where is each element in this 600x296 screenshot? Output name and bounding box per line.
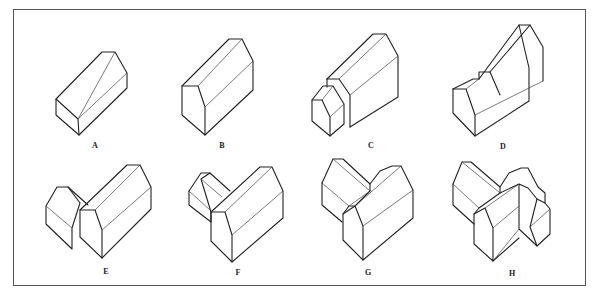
panel-label-b: B	[219, 141, 224, 150]
building-forms-diagram	[0, 0, 600, 296]
panel-label-a: A	[92, 141, 98, 150]
panel-b-drawing	[182, 39, 253, 135]
panel-label-g: G	[365, 268, 371, 277]
panel-d-drawing	[453, 25, 543, 136]
panel-g-drawing	[322, 159, 413, 260]
panel-label-e: E	[103, 267, 108, 276]
panel-e-drawing	[46, 165, 151, 258]
panel-c-drawing	[312, 34, 398, 136]
panel-label-f: F	[236, 268, 241, 277]
panel-a-drawing	[56, 52, 127, 135]
panel-label-h: H	[509, 269, 515, 278]
panel-h-drawing	[453, 162, 550, 261]
panel-f-drawing	[189, 167, 283, 262]
panel-label-c: C	[368, 141, 374, 150]
panel-label-d: D	[500, 142, 506, 151]
